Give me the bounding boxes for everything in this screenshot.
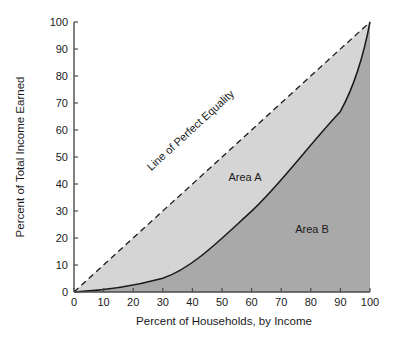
y-tick-label: 30 [56,205,68,217]
x-tick-label: 10 [97,296,109,308]
x-tick-label: 90 [334,296,346,308]
y-tick-label: 60 [56,124,68,136]
x-tick-label: 70 [275,296,287,308]
y-axis-title: Percent of Total Income Earned [14,77,26,238]
x-axis-title: Percent of Households, by Income [136,315,312,327]
y-tick-label: 50 [56,151,68,163]
x-tick-label: 80 [305,296,317,308]
x-tick-label: 30 [157,296,169,308]
x-tick-label: 100 [361,296,379,308]
y-tick-label: 0 [62,286,68,298]
x-axis-tick-labels: 0 10 20 30 40 50 60 70 80 90 100 [71,296,379,308]
x-tick-label: 60 [245,296,257,308]
y-axis-tick-labels: 0 10 20 30 40 50 60 70 80 90 100 [50,16,68,298]
y-tick-label: 40 [56,178,68,190]
y-tick-label: 80 [56,70,68,82]
x-tick-label: 40 [186,296,198,308]
area-b-label: Area B [295,223,329,235]
y-tick-label: 70 [56,97,68,109]
y-tick-label: 10 [56,259,68,271]
y-tick-label: 100 [50,16,68,28]
x-tick-label: 50 [216,296,228,308]
area-a-label: Area A [228,171,262,183]
y-tick-label: 90 [56,43,68,55]
x-tick-label: 0 [71,296,77,308]
lorenz-curve-chart: 0 10 20 30 40 50 60 70 80 90 100 [0,0,397,349]
x-tick-label: 20 [127,296,139,308]
y-tick-label: 20 [56,232,68,244]
chart-figure: 0 10 20 30 40 50 60 70 80 90 100 [0,0,397,349]
